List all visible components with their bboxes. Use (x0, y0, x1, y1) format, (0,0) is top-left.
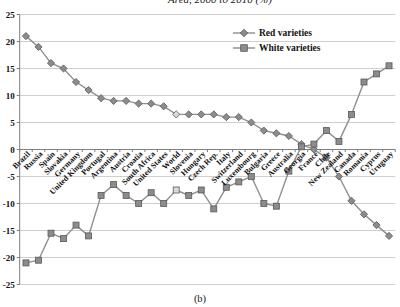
y-tick-label: -25 (3, 280, 15, 290)
data-point-square (148, 190, 154, 196)
square-marker-icon (233, 43, 255, 53)
data-point-diamond (285, 132, 292, 139)
y-tick-label: 10 (6, 91, 16, 101)
data-point-square (374, 71, 380, 77)
plot-area: 2520151050-5-10-15-20-25BrazilRussiaSpai… (0, 0, 400, 307)
data-point-square (35, 257, 41, 263)
data-point-diamond (260, 127, 267, 134)
y-tick-label: -20 (3, 253, 15, 263)
data-point-square (86, 233, 92, 239)
data-point-diamond (210, 111, 217, 118)
y-tick-label: 25 (6, 10, 16, 20)
legend-label: Red varieties (259, 28, 312, 38)
data-point-square (23, 260, 29, 266)
data-point-square (336, 138, 342, 144)
legend-item-white-varieties: White varieties (233, 40, 320, 55)
chart-figure: Area, 2000 to 2010 (%) 2520151050-5-10-1… (0, 0, 400, 307)
data-point-square (361, 79, 367, 85)
legend-item-red-varieties: Red varieties (233, 25, 320, 40)
data-point-diamond (110, 97, 117, 104)
data-point-square (48, 230, 54, 236)
legend: Red varieties White varieties (233, 25, 320, 55)
data-point-diamond (85, 87, 92, 94)
y-tick-label: 20 (6, 37, 16, 47)
data-point-diamond (198, 111, 205, 118)
data-point-diamond (273, 130, 280, 137)
legend-label: White varieties (259, 43, 320, 53)
data-point-diamond (123, 97, 130, 104)
y-tick-label: 5 (10, 118, 15, 128)
data-point-diamond (135, 100, 142, 107)
data-point-square (173, 187, 179, 193)
data-point-square (136, 201, 142, 207)
data-point-diamond (248, 119, 255, 126)
data-point-square (198, 187, 204, 193)
data-point-square (236, 179, 242, 185)
data-point-diamond (148, 100, 155, 107)
data-point-square (186, 192, 192, 198)
data-point-diamond (173, 111, 180, 118)
data-point-square (273, 203, 279, 209)
data-point-square (386, 63, 392, 69)
data-point-square (73, 222, 79, 228)
data-point-square (111, 182, 117, 188)
data-point-square (348, 111, 354, 117)
subfigure-label: (b) (0, 293, 400, 304)
diamond-marker-icon (233, 28, 255, 38)
data-point-diamond (160, 103, 167, 110)
data-point-square (61, 236, 67, 242)
data-point-square (323, 128, 329, 134)
data-point-diamond (235, 114, 242, 121)
y-tick-label: 0 (10, 145, 15, 155)
data-point-square (98, 192, 104, 198)
y-tick-label: -5 (7, 172, 15, 182)
data-point-square (161, 201, 167, 207)
y-tick-label: -15 (3, 226, 15, 236)
data-point-diamond (223, 114, 230, 121)
data-point-square (261, 201, 267, 207)
data-point-square (311, 141, 317, 147)
data-point-square (298, 144, 304, 150)
data-point-square (123, 192, 129, 198)
data-point-square (211, 206, 217, 212)
y-tick-label: 15 (6, 64, 16, 74)
y-tick-label: -10 (3, 199, 15, 209)
data-point-diamond (185, 111, 192, 118)
